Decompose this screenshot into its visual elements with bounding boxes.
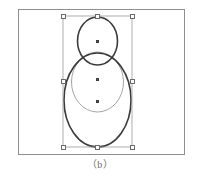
center-dot-middle-shape[interactable] [96,78,99,81]
handle-top-left[interactable] [61,14,66,19]
center-dot-bottom-shape[interactable] [96,100,99,103]
handle-bottom-center[interactable] [95,145,100,150]
handle-bottom-right[interactable] [130,145,135,150]
center-dot-top-shape[interactable] [96,40,99,43]
handle-bottom-left[interactable] [61,145,66,150]
handle-middle-right[interactable] [130,79,135,84]
figure-caption: （b） [0,156,200,171]
figure-root: （b） [0,0,200,175]
handle-top-right[interactable] [130,14,135,19]
handle-top-center[interactable] [95,14,100,19]
handle-middle-left[interactable] [61,79,66,84]
canvas-frame [18,9,185,155]
